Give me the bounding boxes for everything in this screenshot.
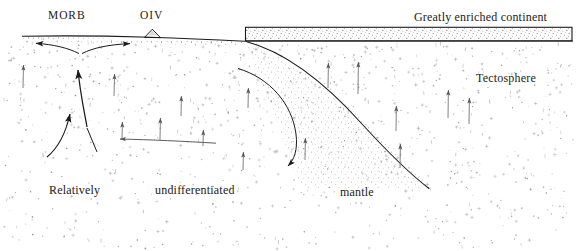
label-continent: Greatly enriched continent	[414, 11, 547, 23]
plume-ascent-main-arrow	[78, 70, 87, 127]
label-relatively: Relatively	[49, 184, 100, 196]
label-tectosphere: Tectosphere	[476, 72, 536, 84]
label-undifferentiated: undifferentiated	[155, 184, 235, 196]
continent-block	[246, 27, 573, 41]
ridge-divergence-right-arrow	[82, 44, 130, 54]
plume-feeder-tail	[87, 128, 97, 152]
plume-ascent-left-arrow	[47, 114, 70, 157]
label-mantle: mantle	[340, 186, 374, 198]
diagram-canvas	[0, 0, 576, 251]
label-morb: MORB	[48, 10, 85, 22]
tectosphere-uplift-arrows	[23, 62, 469, 170]
tectosphere-stipple-wedge	[246, 42, 432, 188]
ridge-divergence-left-arrow	[36, 43, 79, 53]
mantle-cross-section-figure: MORB OIV Greatly enriched continent Tect…	[0, 0, 576, 251]
label-oiv: OIV	[140, 10, 163, 22]
deep-return-flow-arrow	[120, 139, 216, 143]
